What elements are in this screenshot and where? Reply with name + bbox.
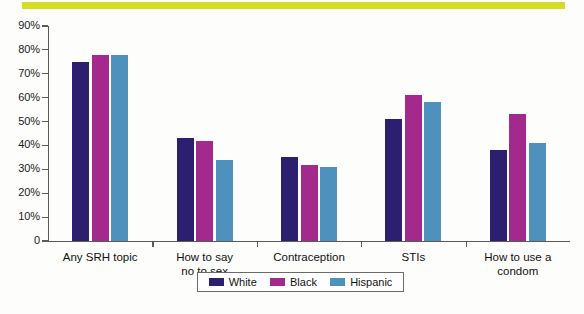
bar-white bbox=[281, 157, 298, 241]
y-axis-tick bbox=[42, 73, 48, 74]
category-label-line: Any SRH topic bbox=[48, 250, 152, 264]
y-axis-tick bbox=[42, 169, 48, 170]
y-axis-tick-label: 40% bbox=[2, 139, 40, 150]
bar-white bbox=[385, 119, 402, 241]
category-label-line: STIs bbox=[361, 250, 465, 264]
legend-item: Black bbox=[270, 277, 317, 288]
bar-hispanic bbox=[320, 167, 337, 241]
y-axis-tick bbox=[42, 49, 48, 50]
bar-black bbox=[92, 55, 109, 241]
category-label-line: How to say bbox=[152, 250, 256, 264]
chart-screenshot: 90%80%70%60%50%40%30%20%10%0 Any SRH top… bbox=[0, 0, 584, 314]
y-axis-tick-label: 50% bbox=[2, 116, 40, 127]
bar-white bbox=[72, 62, 89, 241]
y-axis-tick-label: 10% bbox=[2, 211, 40, 222]
grouped-bar-chart: 90%80%70%60%50%40%30%20%10%0 Any SRH top… bbox=[0, 0, 584, 314]
bar-hispanic bbox=[111, 55, 128, 241]
y-axis-tick-label: 20% bbox=[2, 187, 40, 198]
x-axis-tick bbox=[257, 241, 258, 247]
bar-hispanic bbox=[529, 143, 546, 241]
x-axis-category-label: Contraception bbox=[257, 250, 361, 264]
legend-item: Hispanic bbox=[330, 277, 392, 288]
legend-item: White bbox=[209, 277, 257, 288]
y-axis-tick bbox=[42, 25, 48, 26]
x-axis-tick bbox=[152, 241, 153, 247]
legend-label: Hispanic bbox=[350, 277, 392, 288]
bar-white bbox=[490, 150, 507, 241]
y-axis-tick bbox=[42, 145, 48, 146]
x-axis-category-label: How to use acondom bbox=[466, 250, 570, 278]
y-axis-tick bbox=[42, 121, 48, 122]
bar-black bbox=[301, 165, 318, 241]
x-axis-tick bbox=[466, 241, 467, 247]
y-axis-tick-label: 90% bbox=[2, 20, 40, 31]
x-axis-tick bbox=[361, 241, 362, 247]
y-axis-tick bbox=[42, 240, 48, 241]
legend-label: White bbox=[229, 277, 257, 288]
bar-hispanic bbox=[424, 102, 441, 241]
y-axis-line bbox=[48, 26, 49, 242]
y-axis-tick bbox=[42, 97, 48, 98]
x-axis-category-label: STIs bbox=[361, 250, 465, 264]
y-axis-tick bbox=[42, 193, 48, 194]
bar-black bbox=[196, 141, 213, 241]
y-axis-tick-label: 30% bbox=[2, 163, 40, 174]
y-axis-tick-label: 70% bbox=[2, 68, 40, 79]
y-axis-tick-label: 0 bbox=[2, 235, 40, 246]
category-label-line: condom bbox=[466, 264, 570, 278]
legend-swatch-icon bbox=[209, 278, 224, 286]
y-axis-tick-label: 60% bbox=[2, 92, 40, 103]
x-axis-category-label: Any SRH topic bbox=[48, 250, 152, 264]
y-axis-tick-label: 80% bbox=[2, 44, 40, 55]
bar-black bbox=[509, 114, 526, 241]
legend-label: Black bbox=[290, 277, 317, 288]
category-label-line: How to use a bbox=[466, 250, 570, 264]
x-axis-line bbox=[48, 241, 570, 242]
bar-white bbox=[177, 138, 194, 241]
legend-swatch-icon bbox=[330, 278, 345, 286]
category-label-line: Contraception bbox=[257, 250, 361, 264]
bar-black bbox=[405, 95, 422, 241]
legend-swatch-icon bbox=[270, 278, 285, 286]
chart-legend: WhiteBlackHispanic bbox=[197, 272, 404, 292]
bar-hispanic bbox=[216, 160, 233, 241]
y-axis-tick bbox=[42, 217, 48, 218]
